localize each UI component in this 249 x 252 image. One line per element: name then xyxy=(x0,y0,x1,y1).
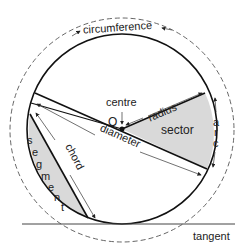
segment-letter-1: s xyxy=(27,134,33,146)
circumference-label: circumference xyxy=(83,19,153,36)
tangent-label: tangent xyxy=(193,230,230,242)
diameter-arrow-left xyxy=(37,104,95,135)
circle-diagram: circumference centre O radius sector a r… xyxy=(0,0,249,252)
segment-letter-2: e xyxy=(32,146,38,158)
segment-letter-7: t xyxy=(61,201,64,213)
segment-letter-3: g xyxy=(36,158,42,170)
segment-letter-6: n xyxy=(54,191,60,203)
circumference-arrow-left xyxy=(72,31,80,36)
arc-label-c: c xyxy=(213,137,219,149)
chord-label: chord xyxy=(63,142,87,172)
centre-label: centre xyxy=(106,96,137,108)
sector-label: sector xyxy=(161,123,194,137)
